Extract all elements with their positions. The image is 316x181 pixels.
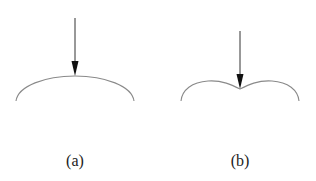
arrowhead-b-icon: [237, 74, 244, 89]
panel-label-b: (b): [231, 152, 250, 170]
panel-b: [181, 31, 299, 101]
diagram-canvas: [0, 0, 316, 181]
arrowhead-a-icon: [72, 61, 79, 76]
panel-a: [16, 18, 134, 101]
smooth-arc-curve: [16, 76, 134, 101]
panel-label-a: (a): [66, 152, 84, 170]
